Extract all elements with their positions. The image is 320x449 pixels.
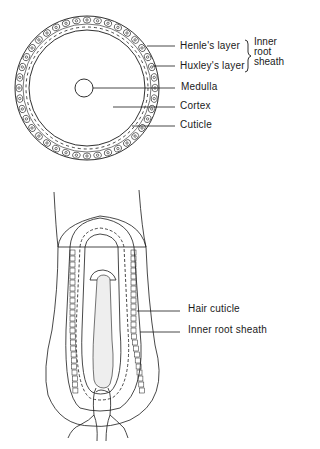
label-henles-layer: Henle's layer (180, 40, 240, 51)
group-line-3: sheath (254, 57, 284, 67)
longitudinal-section-illustration (46, 190, 180, 441)
medulla-shape (75, 79, 93, 97)
label-cuticle: Cuticle (180, 119, 212, 130)
label-cortex: Cortex (180, 100, 211, 111)
label-huxleys-layer: Huxley's layer (180, 60, 245, 71)
label-inner-root-sheath-group: Inner root sheath (254, 37, 284, 67)
papilla-shape (93, 275, 113, 388)
label-hair-cuticle: Hair cuticle (188, 303, 240, 314)
label-medulla: Medulla (181, 81, 217, 92)
label-inner-root-sheath: Inner root sheath (188, 324, 267, 335)
